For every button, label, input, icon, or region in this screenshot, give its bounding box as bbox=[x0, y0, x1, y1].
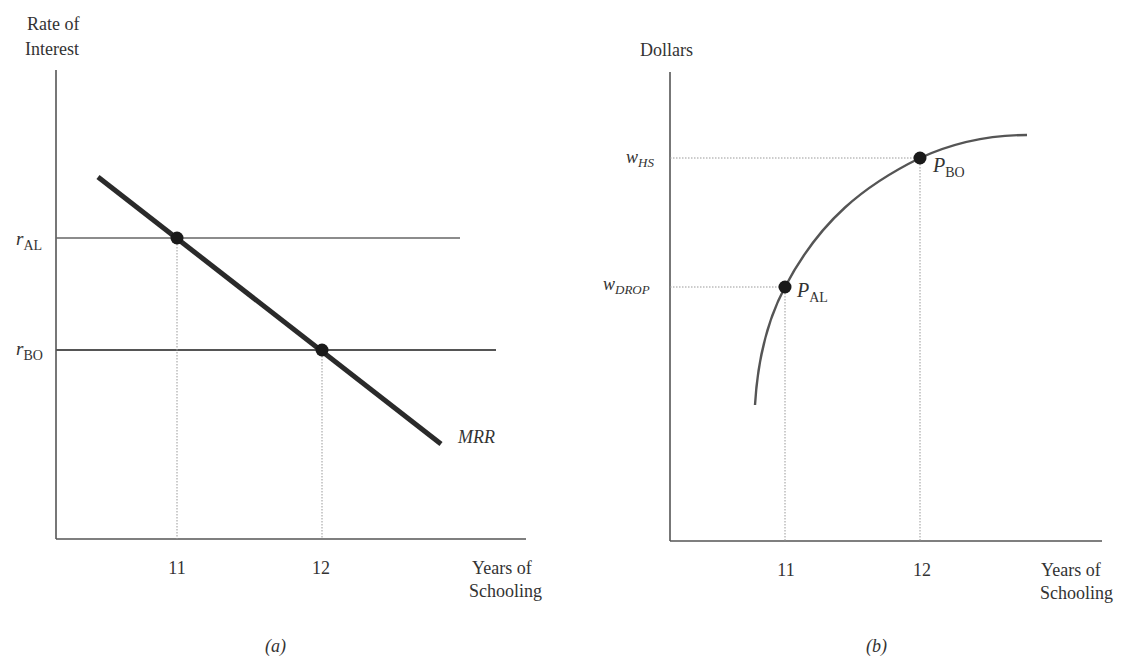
x-tick-11: 11 bbox=[168, 558, 185, 578]
point-p-bo bbox=[914, 152, 927, 165]
figure: Rate of Interest rAL rBO MRR 11 12 Years… bbox=[0, 0, 1144, 672]
x-axis-label-line2: Schooling bbox=[469, 581, 542, 601]
panel-caption: (b) bbox=[866, 636, 887, 657]
y-tick-w-drop: wDROP bbox=[603, 274, 650, 297]
y-axis-label: Dollars bbox=[640, 40, 693, 60]
mrr-line bbox=[98, 177, 441, 444]
mrr-label: MRR bbox=[457, 427, 495, 447]
wage-schooling-curve bbox=[755, 135, 1027, 405]
x-tick-12: 12 bbox=[913, 560, 931, 580]
y-tick-r-bo: rBO bbox=[16, 338, 43, 363]
x-axis-label-line1: Years of bbox=[472, 558, 532, 578]
label-p-bo: PBO bbox=[932, 154, 965, 180]
x-tick-12: 12 bbox=[312, 558, 330, 578]
x-axis-label-line1: Years of bbox=[1041, 560, 1101, 580]
y-axis-label-line1: Rate of bbox=[27, 14, 79, 34]
point-p-al bbox=[779, 281, 792, 294]
x-tick-11: 11 bbox=[777, 560, 794, 580]
x-axis-label-line2: Schooling bbox=[1040, 583, 1113, 603]
panel-caption: (a) bbox=[265, 636, 286, 657]
y-tick-r-al: rAL bbox=[16, 228, 42, 253]
label-p-al: PAL bbox=[796, 279, 828, 305]
point-r-bo bbox=[316, 344, 329, 357]
panel-a: Rate of Interest rAL rBO MRR 11 12 Years… bbox=[16, 14, 542, 657]
y-axis-label-line2: Interest bbox=[25, 39, 79, 59]
point-r-al bbox=[171, 232, 184, 245]
panel-b: Dollars wHS wDROP PBO PAL 11 12 Years of… bbox=[603, 40, 1113, 657]
y-tick-w-hs: wHS bbox=[626, 147, 654, 170]
